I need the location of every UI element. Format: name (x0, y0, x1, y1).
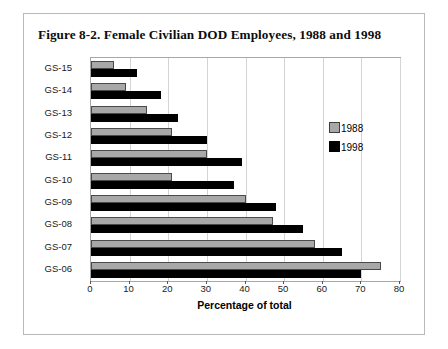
legend-label-1988: 1988 (341, 123, 363, 134)
bar-1988-GS-12 (91, 128, 172, 136)
x-axis-label-20: 20 (147, 283, 187, 294)
bar-1988-GS-09 (91, 195, 246, 203)
y-axis-label-GS-11: GS-11 (12, 151, 72, 162)
x-axis-tick-mark (129, 281, 130, 284)
x-axis-label-50: 50 (263, 283, 303, 294)
bar-1988-GS-06 (91, 262, 381, 270)
x-axis-tick-mark (399, 281, 400, 284)
bar-1998-GS-10 (91, 181, 234, 189)
bar-group (91, 262, 400, 278)
bar-1988-GS-07 (91, 240, 315, 248)
legend-label-1998: 1998 (341, 142, 363, 153)
y-axis-label-GS-15: GS-15 (12, 62, 72, 73)
figure-container: Figure 8-2. Female Civilian DOD Employee… (23, 13, 425, 335)
x-axis-label-70: 70 (340, 283, 380, 294)
x-axis-label-0: 0 (70, 283, 110, 294)
gridline (400, 58, 401, 281)
y-axis-label-GS-07: GS-07 (12, 241, 72, 252)
bar-1988-GS-08 (91, 217, 273, 225)
bar-1998-GS-12 (91, 136, 207, 144)
x-axis-tick-mark (360, 281, 361, 284)
plot-frame (90, 57, 401, 282)
x-axis-label-30: 30 (186, 283, 226, 294)
bar-1998-GS-14 (91, 91, 161, 99)
x-axis-tick-mark (322, 281, 323, 284)
bar-group (91, 240, 400, 256)
bar-1998-GS-09 (91, 203, 276, 211)
y-axis-label-GS-13: GS-13 (12, 107, 72, 118)
bar-1998-GS-08 (91, 225, 303, 233)
y-axis-label-GS-10: GS-10 (12, 174, 72, 185)
bar-1998-GS-07 (91, 248, 342, 256)
bar-group (91, 83, 400, 99)
legend-swatch-1998 (329, 141, 340, 152)
legend-item-1998: 1998 (329, 137, 363, 156)
legend-swatch-1988 (329, 122, 340, 133)
bar-1988-GS-14 (91, 83, 126, 91)
y-axis-label-GS-12: GS-12 (12, 129, 72, 140)
x-axis-title: Percentage of total (90, 299, 399, 311)
x-axis-label-10: 10 (109, 283, 149, 294)
bar-1988-GS-13 (91, 106, 147, 114)
bar-1998-GS-15 (91, 69, 137, 77)
bar-group (91, 61, 400, 77)
legend-item-1988: 1988 (329, 118, 363, 137)
bar-1998-GS-06 (91, 270, 361, 278)
bar-1988-GS-11 (91, 150, 207, 158)
bar-group (91, 217, 400, 233)
bar-1998-GS-13 (91, 114, 178, 122)
x-axis-tick-mark (167, 281, 168, 284)
x-axis-label-40: 40 (225, 283, 265, 294)
x-axis-tick-mark (90, 281, 91, 284)
figure-title: Figure 8-2. Female Civilian DOD Employee… (38, 27, 418, 43)
bar-group (91, 195, 400, 211)
bar-1988-GS-15 (91, 61, 114, 69)
x-axis-tick-mark (245, 281, 246, 284)
y-axis-label-GS-08: GS-08 (12, 218, 72, 229)
x-axis-tick-mark (206, 281, 207, 284)
bar-chart: GS-15GS-14GS-13GS-12GS-11GS-10GS-09GS-08… (67, 57, 399, 291)
chart-legend: 19881998 (329, 118, 363, 156)
x-axis-label-80: 80 (379, 283, 419, 294)
x-axis-tick-mark (283, 281, 284, 284)
bar-group (91, 173, 400, 189)
y-axis-label-GS-14: GS-14 (12, 84, 72, 95)
y-axis-label-GS-09: GS-09 (12, 196, 72, 207)
x-axis-label-60: 60 (302, 283, 342, 294)
y-axis-label-GS-06: GS-06 (12, 263, 72, 274)
bar-1988-GS-10 (91, 173, 172, 181)
bar-1998-GS-11 (91, 158, 242, 166)
